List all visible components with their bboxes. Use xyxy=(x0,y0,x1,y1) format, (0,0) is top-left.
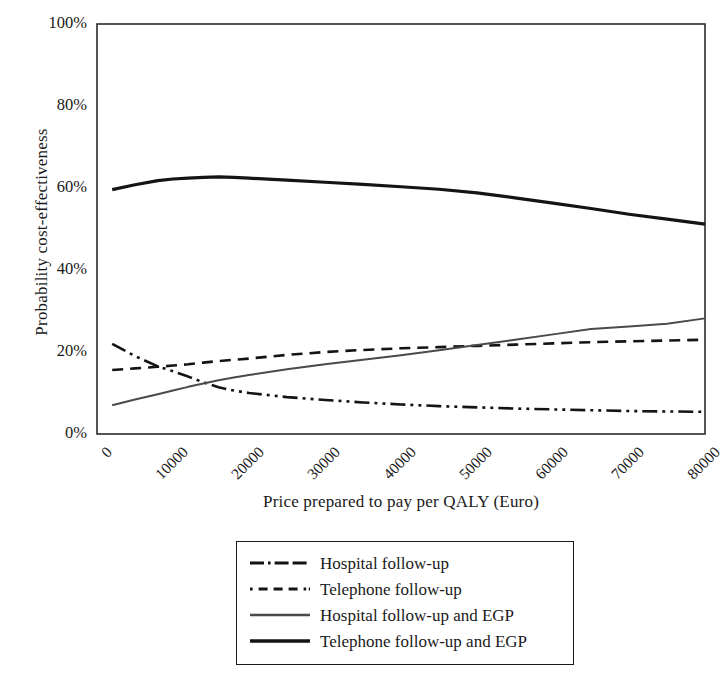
plot-frame xyxy=(97,24,705,434)
y-tick-label: 40% xyxy=(17,259,87,279)
y-tick-label: 60% xyxy=(17,177,87,197)
legend-line-telephone-follow-up xyxy=(249,582,311,596)
legend-label: Telephone follow-up and EGP xyxy=(320,633,527,650)
chart-legend: Hospital follow-up Telephone follow-up H… xyxy=(236,541,574,665)
y-tick-label: 80% xyxy=(17,95,87,115)
legend-item[interactable]: Telephone follow-up xyxy=(249,576,573,602)
legend-label: Hospital follow-up and EGP xyxy=(320,607,514,624)
legend-item[interactable]: Hospital follow-up xyxy=(249,550,573,576)
y-tick-label: 20% xyxy=(17,341,87,361)
y-tick-label: 0% xyxy=(17,423,87,443)
y-tick-label: 100% xyxy=(17,13,87,33)
legend-item[interactable]: Telephone follow-up and EGP xyxy=(249,628,573,654)
legend-label: Hospital follow-up xyxy=(320,555,449,572)
legend-line-hospital-follow-up xyxy=(249,556,311,570)
legend-label: Telephone follow-up xyxy=(320,581,462,598)
legend-line-telephone-follow-up-and-egp xyxy=(249,634,311,648)
legend-line-hospital-follow-up-and-egp xyxy=(249,608,311,622)
figure-container: Probability cost-effectiveness Price pre… xyxy=(0,0,728,683)
legend-item[interactable]: Hospital follow-up and EGP xyxy=(249,602,573,628)
